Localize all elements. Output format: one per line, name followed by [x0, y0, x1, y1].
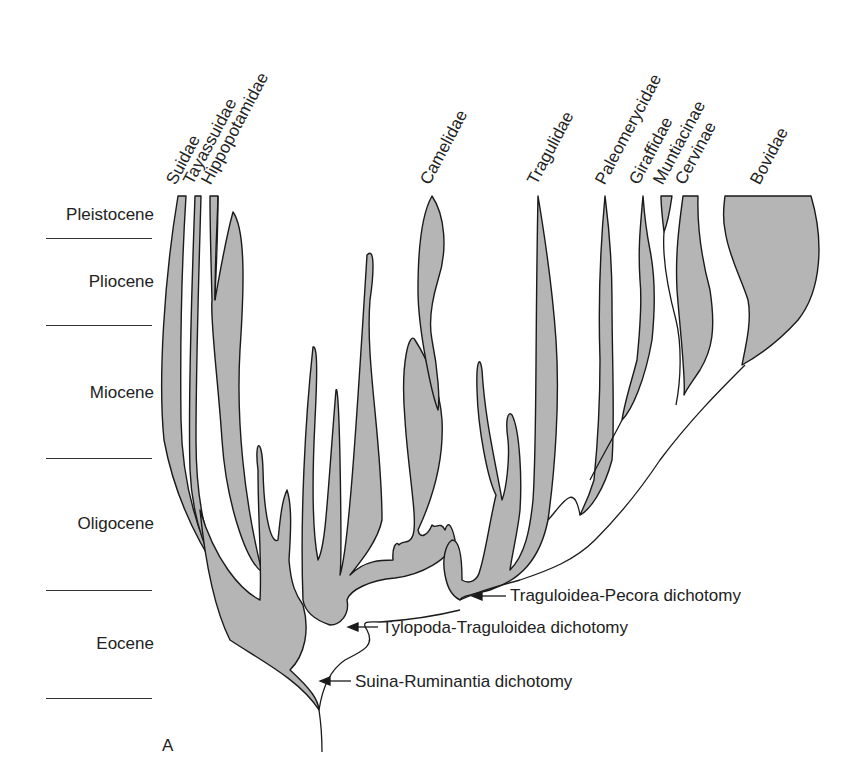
arrowhead-icon [348, 623, 358, 631]
lineage-bovidae [723, 196, 819, 365]
panel-label: A [162, 736, 173, 756]
lineage-suina-base [200, 446, 319, 710]
dichotomy-label-tylopoda-traguloidea: Tylopoda-Traguloidea dichotomy [382, 618, 628, 638]
lineage-cervinae [677, 196, 713, 395]
stem-tragulidae-link [548, 497, 580, 520]
arrowhead-icon [320, 677, 330, 685]
lineage-hippopotamidae [210, 196, 262, 572]
lineage-traguloidea-base [444, 196, 558, 600]
dichotomy-label-traguloidea-pecora: Traguloidea-Pecora dichotomy [510, 586, 741, 606]
lineage-muntiacinae [661, 196, 672, 232]
dichotomy-label-suina-ruminantia: Suina-Ruminantia dichotomy [355, 672, 572, 692]
phylogeny-tree [0, 0, 864, 780]
stem-root [319, 710, 322, 752]
lineage-giraffidae [622, 196, 654, 420]
